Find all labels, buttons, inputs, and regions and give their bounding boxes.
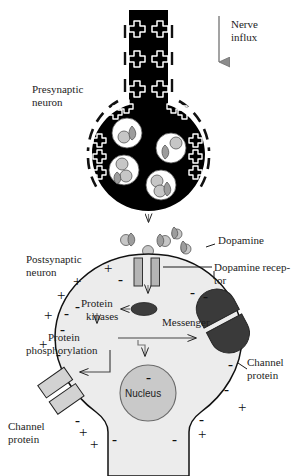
charge-plus-outside: +	[90, 437, 98, 452]
label-postsynaptic-line1: Postsynaptic	[26, 253, 82, 266]
label-protein-kinases-line2: kinases	[86, 310, 118, 323]
charge-minus-inside: -	[203, 289, 208, 304]
charge-plus-outside: +	[238, 400, 246, 415]
label-channel-protein-right-line2: protein	[247, 369, 278, 382]
label-dopamine-receptor-line1: Dopamine recep-	[214, 261, 290, 274]
charge-minus-inside: -	[190, 285, 195, 300]
charge-minus-inside: -	[224, 382, 229, 397]
label-channel-protein-left-line2: protein	[8, 433, 39, 446]
charge-minus-inside: -	[172, 432, 177, 447]
charge-plus-outside: +	[73, 274, 81, 289]
label-postsynaptic-line2: neuron	[26, 266, 57, 279]
label-nerve-influx-line1: Nerve	[231, 18, 258, 31]
label-messenger: Messenger	[162, 316, 210, 329]
label-dopamine: Dopamine	[218, 234, 264, 247]
charge-minus-inside: -	[75, 299, 80, 314]
label-nucleus: Nucleus	[125, 388, 161, 399]
synapse-diagram: + + + + + + + + + - - - - - - - - - - - …	[0, 0, 297, 476]
label-protein-phosphorylation-line1: Protein	[48, 331, 80, 344]
charge-minus-inside: -	[75, 413, 80, 428]
charge-plus-outside: +	[57, 288, 65, 303]
charge-plus-outside: +	[44, 308, 52, 323]
charge-plus-outside: +	[79, 425, 87, 440]
label-protein-phosphorylation-line2: phosphorylation	[26, 344, 98, 357]
charge-plus-outside: +	[104, 261, 112, 276]
terminal-plus-signs	[93, 100, 202, 179]
charge-plus-outside: +	[198, 427, 206, 442]
axon-plus-signs	[129, 21, 168, 97]
charge-minus-inside: -	[146, 370, 151, 385]
charge-minus-inside: -	[118, 272, 123, 287]
charge-minus-inside: -	[112, 432, 117, 447]
label-channel-protein-right-line1: Channel	[247, 356, 284, 369]
charge-minus-inside: -	[228, 357, 233, 372]
label-protein-kinases-line1: Protein	[81, 297, 113, 310]
label-presynaptic-line2: neuron	[32, 96, 63, 109]
charge-minus-inside: -	[64, 306, 69, 321]
label-presynaptic-line1: Presynaptic	[32, 83, 83, 96]
label-channel-protein-left-line1: Channel	[8, 420, 45, 433]
charge-minus-inside: -	[199, 412, 204, 427]
label-dopamine-receptor-line2: tor	[214, 274, 226, 287]
label-nerve-influx-line2: influx	[231, 31, 257, 44]
